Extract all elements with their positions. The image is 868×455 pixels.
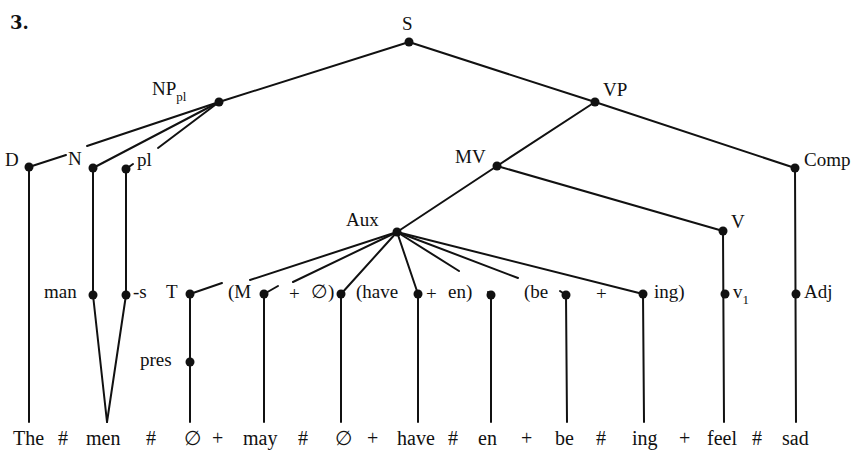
terminal-boundary: # (596, 428, 606, 448)
node-D: D (5, 150, 19, 169)
terminal-boundary: # (752, 428, 762, 448)
node-ing: ing) (654, 282, 685, 301)
node-v1: v1 (733, 282, 749, 301)
terminal-feel: feel (707, 428, 737, 448)
node-NP-subscript: pl (176, 89, 186, 104)
node-have: (have (356, 282, 398, 301)
node-plus-2: + (426, 284, 437, 303)
node-T: T (166, 282, 178, 301)
terminal-boundary: # (58, 428, 68, 448)
node-NP-label: NP (152, 78, 176, 99)
node-null-1: ∅) (311, 282, 334, 301)
terminal-plus: + (367, 428, 378, 448)
terminal-have: have (397, 428, 435, 448)
node-plus-3: + (596, 284, 607, 303)
terminal-boundary: # (146, 428, 156, 448)
node-en: en) (448, 282, 472, 301)
terminal-men: men (86, 428, 120, 448)
node-V: V (731, 212, 745, 231)
terminal-be: be (555, 428, 574, 448)
node-v-subscript: 1 (743, 292, 750, 307)
node-Comp: Comp (804, 150, 850, 169)
node-pres: pres (140, 350, 172, 369)
node-s-suffix: -s (133, 282, 147, 301)
node-Adj: Adj (804, 282, 833, 301)
terminal-sad: sad (782, 428, 809, 448)
node-v-label: v (733, 281, 743, 302)
terminal-null: ∅ (335, 428, 352, 448)
terminal-plus: + (212, 428, 223, 448)
terminal-boundary: # (448, 428, 458, 448)
node-pl: pl (137, 150, 152, 169)
node-plus-1: + (289, 284, 300, 303)
terminal-may: may (243, 428, 277, 448)
node-S: S (402, 14, 413, 33)
terminal-The: The (13, 428, 44, 448)
node-Aux: Aux (346, 210, 379, 229)
node-N: N (68, 149, 82, 168)
node-be: (be (524, 282, 548, 301)
node-VP: VP (603, 80, 627, 99)
terminal-null: ∅ (184, 428, 201, 448)
terminal-en: en (478, 428, 497, 448)
node-man: man (44, 282, 77, 301)
node-MV: MV (455, 147, 486, 166)
terminal-plus: + (521, 428, 532, 448)
terminal-ing: ing (632, 428, 658, 448)
terminal-plus: + (679, 428, 690, 448)
figure-number: 3. (10, 12, 29, 33)
terminal-boundary: # (298, 428, 308, 448)
node-NP: NPpl (152, 79, 186, 98)
node-M: (M (228, 282, 251, 301)
